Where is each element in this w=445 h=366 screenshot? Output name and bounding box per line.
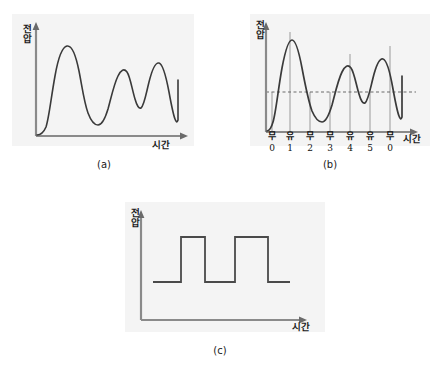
panel-c-square-wave (153, 237, 290, 282)
panel-b-caption: (b) (310, 159, 350, 170)
panel-b-y-label-line2: 압 (255, 30, 265, 40)
panel-a-caption: (a) (84, 159, 124, 170)
panel-a-y-axis-arrow (33, 22, 40, 30)
sample-index-5: 5 (363, 143, 377, 154)
sample-index-6: 0 (383, 143, 397, 154)
panel-c (125, 202, 325, 332)
panel-a-x-axis-arrow (180, 133, 188, 140)
panel-c-y-label-line2: 압 (130, 218, 140, 228)
sample-state-1: 유 (283, 131, 297, 142)
panel-a-waveform (37, 46, 178, 135)
panel-b-x-axis-label: 시간 (403, 134, 420, 144)
sample-index-0: 0 (265, 143, 279, 154)
panel-b (250, 14, 430, 146)
panel-b-plot (250, 14, 430, 146)
panel-c-caption: (c) (200, 345, 240, 356)
sample-state-3: 무 (323, 131, 337, 142)
sample-state-0: 무 (265, 131, 279, 142)
sample-state-5: 유 (363, 131, 377, 142)
panel-a-x-axis-label: 시간 (152, 140, 169, 150)
panel-a-plot (12, 14, 194, 146)
panel-a-y-label-line2: 압 (22, 34, 32, 44)
sample-state-2: 무 (303, 131, 317, 142)
panel-b-y-axis-label: 전 압 (255, 20, 265, 40)
sample-state-4: 유 (343, 131, 357, 142)
panel-c-x-axis-label: 시간 (292, 322, 309, 332)
signal-conversion-figure: 전 압 시간 (a) (0, 0, 445, 366)
sample-index-3: 3 (323, 143, 337, 154)
sample-index-2: 2 (303, 143, 317, 154)
panel-c-plot (125, 202, 325, 332)
sample-index-1: 1 (283, 143, 297, 154)
panel-a-y-axis-label: 전 압 (22, 24, 32, 44)
panel-c-y-axis-label: 전 압 (130, 208, 140, 228)
sample-index-4: 4 (343, 143, 357, 154)
panel-a (12, 14, 194, 146)
sample-state-6: 무 (383, 131, 397, 142)
panel-b-waveform (267, 40, 402, 131)
